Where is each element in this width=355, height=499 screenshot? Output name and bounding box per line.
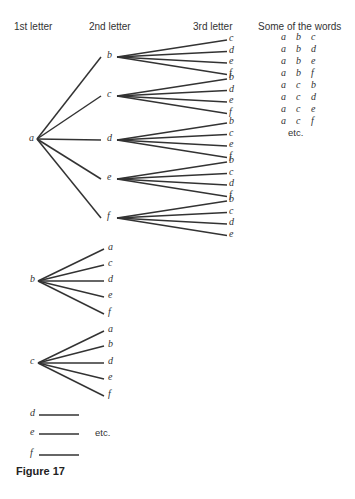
word-letter: b — [311, 79, 316, 90]
header-1st-letter: 1st letter — [14, 21, 52, 32]
branch-line — [38, 346, 104, 363]
word-letter: a — [281, 103, 286, 114]
leaf-a-f-b: b — [229, 194, 234, 204]
word-letter: c — [296, 103, 300, 114]
node-undefined-f: f — [107, 211, 110, 221]
header-2nd-letter: 2nd letter — [89, 21, 131, 32]
stub-f: f — [30, 448, 33, 458]
leaf-a-d-c: c — [229, 128, 233, 138]
leaf-a-b-d: d — [229, 45, 234, 55]
branch-line — [37, 139, 101, 218]
word-letter: b — [296, 67, 301, 78]
leaf-a-c-e: e — [229, 95, 233, 105]
branch-line — [37, 57, 101, 139]
word-letter: c — [296, 115, 300, 126]
word-letter: c — [296, 91, 300, 102]
leaf-a-d-e: e — [229, 139, 233, 149]
leaf-a-f-c: c — [229, 206, 233, 216]
node-undefined-b: b — [107, 50, 112, 60]
branch-line — [38, 363, 104, 379]
leaf-b-a: a — [108, 242, 113, 252]
node-a: a — [29, 133, 34, 143]
branch-line — [37, 139, 101, 140]
branch-line — [38, 249, 104, 281]
leaf-c-d: d — [108, 356, 113, 366]
word-letter: f — [311, 67, 314, 78]
branch-line — [37, 96, 101, 139]
word-letter: b — [296, 31, 301, 42]
tree-diagram: 1st letter 2nd letter 3rd letter Some of… — [0, 0, 355, 499]
stubs-etc: etc. — [95, 427, 110, 438]
node-c: c — [30, 356, 34, 366]
word-letter: a — [281, 67, 286, 78]
branch-line — [38, 265, 104, 281]
word-letter: c — [311, 31, 315, 42]
node-undefined-e: e — [107, 172, 111, 182]
word-letter: a — [281, 55, 286, 66]
header-3rd-letter: 3rd letter — [193, 21, 232, 32]
leaf-b-f: f — [108, 307, 111, 317]
leaf-a-e-d: d — [229, 178, 234, 188]
leaf-c-a: a — [108, 324, 113, 334]
leaf-c-e: e — [108, 372, 112, 382]
node-undefined-d: d — [107, 133, 112, 143]
word-letter: a — [281, 79, 286, 90]
branch-line — [37, 139, 101, 179]
word-letter: a — [281, 43, 286, 54]
leaf-b-d: d — [108, 274, 113, 284]
word-letter: a — [281, 91, 286, 102]
branch-line — [38, 363, 104, 396]
leaf-c-b: b — [108, 339, 113, 349]
word-letter: c — [296, 79, 300, 90]
node-undefined-c: c — [107, 89, 111, 99]
word-letter: d — [311, 91, 316, 102]
leaf-b-c: c — [108, 258, 112, 268]
word-letter: e — [311, 103, 315, 114]
leaf-a-f-e: e — [229, 229, 233, 239]
word-letter: a — [281, 115, 286, 126]
word-letter: e — [311, 55, 315, 66]
tree-lines — [0, 0, 355, 499]
leaf-a-b-e: e — [229, 56, 233, 66]
branch-line — [38, 281, 104, 297]
leaf-a-c-b: b — [229, 72, 234, 82]
leaf-a-b-c: c — [229, 33, 233, 43]
branch-line — [38, 281, 104, 314]
leaf-b-e: e — [108, 290, 112, 300]
stub-e: e — [30, 427, 34, 437]
leaf-a-f-d: d — [229, 217, 234, 227]
word-letter: b — [296, 43, 301, 54]
branch-line — [38, 331, 104, 363]
stub-d: d — [30, 408, 35, 418]
word-letter: d — [311, 43, 316, 54]
leaf-a-c-d: d — [229, 84, 234, 94]
node-b: b — [30, 274, 35, 284]
word-letter: b — [296, 55, 301, 66]
word-letter: f — [311, 115, 314, 126]
word-letter: a — [281, 31, 286, 42]
leaf-a-e-b: b — [229, 155, 234, 165]
leaf-a-e-c: c — [229, 167, 233, 177]
leaf-a-d-b: b — [229, 116, 234, 126]
leaf-c-f: f — [108, 389, 111, 399]
words-etc: etc. — [288, 127, 303, 138]
figure-caption: Figure 17 — [16, 465, 65, 477]
